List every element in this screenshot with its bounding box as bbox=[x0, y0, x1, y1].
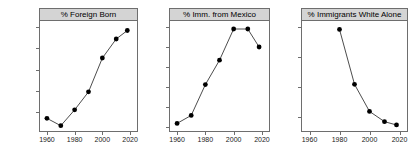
x-tick-label: 2000 bbox=[356, 136, 384, 143]
x-tick-mark bbox=[177, 132, 178, 135]
data-point bbox=[231, 27, 236, 32]
y-tick-mark bbox=[166, 107, 169, 108]
x-tick-mark bbox=[262, 132, 263, 135]
x-tick-label: 2020 bbox=[248, 136, 276, 143]
data-point bbox=[367, 109, 372, 114]
x-tick-mark bbox=[102, 132, 103, 135]
x-tick-mark bbox=[340, 132, 341, 135]
plot-area-1 bbox=[39, 20, 138, 132]
x-tick-mark bbox=[310, 132, 311, 135]
data-point bbox=[352, 82, 357, 87]
x-tick-mark bbox=[370, 132, 371, 135]
data-point bbox=[257, 45, 262, 50]
data-point bbox=[45, 116, 50, 121]
plot-area-3 bbox=[301, 20, 408, 132]
y-tick-mark bbox=[36, 112, 39, 113]
data-point bbox=[245, 27, 250, 32]
x-tick-label: 1980 bbox=[191, 136, 219, 143]
x-tick-mark bbox=[130, 132, 131, 135]
x-tick-label: 2000 bbox=[220, 136, 248, 143]
x-tick-mark bbox=[400, 132, 401, 135]
x-tick-label: 1960 bbox=[163, 136, 191, 143]
y-tick-mark bbox=[36, 27, 39, 28]
y-tick-mark bbox=[298, 87, 301, 88]
x-tick-mark bbox=[75, 132, 76, 135]
x-tick-label: 1960 bbox=[296, 136, 324, 143]
data-point bbox=[217, 58, 222, 63]
data-point bbox=[382, 119, 387, 124]
data-point bbox=[175, 121, 180, 126]
data-point bbox=[114, 37, 119, 42]
y-tick-mark bbox=[166, 87, 169, 88]
x-tick-mark bbox=[205, 132, 206, 135]
y-tick-mark bbox=[36, 70, 39, 71]
data-point bbox=[394, 123, 399, 128]
data-point bbox=[86, 89, 91, 94]
y-tick-mark bbox=[36, 48, 39, 49]
y-tick-mark bbox=[298, 27, 301, 28]
y-tick-mark bbox=[166, 47, 169, 48]
series-line bbox=[177, 29, 259, 123]
series-line bbox=[47, 31, 127, 126]
series-plot-2 bbox=[170, 21, 269, 131]
x-tick-label: 2020 bbox=[386, 136, 414, 143]
x-tick-mark bbox=[234, 132, 235, 135]
x-tick-label: 1960 bbox=[33, 136, 61, 143]
x-tick-label: 1980 bbox=[326, 136, 354, 143]
x-tick-label: 2020 bbox=[116, 136, 144, 143]
x-tick-label: 2000 bbox=[88, 136, 116, 143]
y-tick-mark bbox=[36, 91, 39, 92]
y-tick-mark bbox=[166, 127, 169, 128]
multi-panel-line-chart: % Foreign Born6%8%10%12%14%1960198020002… bbox=[0, 0, 416, 155]
x-tick-label: 1980 bbox=[61, 136, 89, 143]
series-plot-3 bbox=[302, 21, 407, 131]
data-point bbox=[100, 56, 105, 61]
data-point bbox=[72, 107, 77, 112]
y-tick-mark bbox=[298, 57, 301, 58]
data-point bbox=[125, 28, 130, 33]
plot-area-2 bbox=[169, 20, 270, 132]
data-point bbox=[203, 82, 208, 87]
x-tick-mark bbox=[47, 132, 48, 135]
y-tick-mark bbox=[298, 117, 301, 118]
y-tick-mark bbox=[166, 67, 169, 68]
data-point bbox=[189, 113, 194, 118]
data-point bbox=[337, 27, 342, 32]
y-tick-mark bbox=[166, 27, 169, 28]
data-point bbox=[58, 123, 63, 128]
series-plot-1 bbox=[40, 21, 137, 131]
